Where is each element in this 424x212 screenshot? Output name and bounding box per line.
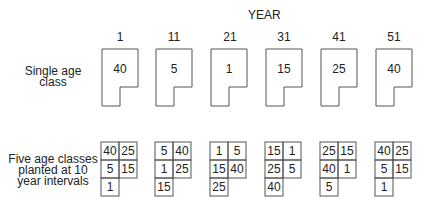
age-class-value: 1 xyxy=(107,180,114,194)
diagram-canvas: 4051152540402551515401251515154025151255… xyxy=(0,0,424,212)
age-class-value: 40 xyxy=(175,144,189,158)
age-class-value: 40 xyxy=(230,162,244,176)
age-class-value: 40 xyxy=(377,144,391,158)
five-age-plot-11: 54012515 xyxy=(155,142,191,196)
five-age-plot-41: 25154015 xyxy=(320,142,356,196)
age-class-value: 15 xyxy=(340,144,354,158)
single-age-plot-21: 1 xyxy=(211,49,247,106)
age-class-value: 5 xyxy=(289,162,296,176)
stand-age-value: 40 xyxy=(387,62,401,76)
five-age-plot-31: 15125540 xyxy=(265,142,301,196)
stand-age-value: 15 xyxy=(277,62,291,76)
age-class-value: 25 xyxy=(175,162,189,176)
stand-outline xyxy=(211,49,247,106)
stand-age-value: 25 xyxy=(332,62,346,76)
age-class-value: 15 xyxy=(395,162,409,176)
age-class-value: 5 xyxy=(161,144,168,158)
stand-age-value: 1 xyxy=(226,62,233,76)
stand-age-value: 40 xyxy=(113,62,127,76)
single-age-plot-11: 5 xyxy=(156,49,192,106)
age-class-value: 1 xyxy=(216,144,223,158)
stand-outline xyxy=(321,49,357,106)
age-class-value: 40 xyxy=(267,180,281,194)
five-age-plot-21: 15154025 xyxy=(210,142,246,196)
age-class-value: 15 xyxy=(121,162,135,176)
age-class-value: 40 xyxy=(103,144,117,158)
age-class-value: 25 xyxy=(322,144,336,158)
stand-outline xyxy=(376,49,412,106)
age-class-value: 25 xyxy=(267,162,281,176)
age-class-value: 5 xyxy=(326,180,333,194)
age-class-value: 1 xyxy=(344,162,351,176)
single-age-plot-1: 40 xyxy=(102,49,138,106)
age-class-value: 5 xyxy=(234,144,241,158)
age-class-value: 1 xyxy=(381,180,388,194)
age-class-value: 25 xyxy=(395,144,409,158)
single-age-plot-31: 15 xyxy=(266,49,302,106)
age-class-value: 25 xyxy=(121,144,135,158)
age-class-value: 15 xyxy=(267,144,281,158)
age-class-value: 5 xyxy=(381,162,388,176)
age-class-value: 1 xyxy=(289,144,296,158)
five-age-plot-1: 40255151 xyxy=(101,142,137,196)
age-class-value: 5 xyxy=(107,162,114,176)
single-age-plot-51: 40 xyxy=(376,49,412,106)
five-age-plot-51: 40255151 xyxy=(375,142,411,196)
stand-outline xyxy=(102,49,138,106)
stand-age-value: 5 xyxy=(171,62,178,76)
age-class-value: 40 xyxy=(322,162,336,176)
age-class-value: 15 xyxy=(157,180,171,194)
single-age-plot-41: 25 xyxy=(321,49,357,106)
age-class-value: 15 xyxy=(212,162,226,176)
age-class-value: 1 xyxy=(161,162,168,176)
stand-outline xyxy=(156,49,192,106)
stand-outline xyxy=(266,49,302,106)
age-class-value: 25 xyxy=(212,180,226,194)
